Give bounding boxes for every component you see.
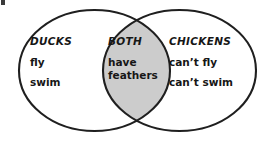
right-set-title: CHICKENS — [169, 36, 233, 47]
intersection-item-2: feathers — [108, 70, 158, 81]
right-set-labels: CHICKENS can’t fly can’t swim — [169, 36, 233, 98]
intersection-item-1: have — [108, 57, 158, 68]
left-set-labels: DUCKS fly swim — [30, 36, 72, 98]
scan-artifact-mark — [1, 0, 5, 5]
left-set-item-1: fly — [30, 57, 72, 68]
right-set-item-2: can’t swim — [169, 77, 233, 88]
left-set-title: DUCKS — [30, 36, 72, 47]
intersection-title: BOTH — [108, 36, 158, 47]
left-set-item-2: swim — [30, 77, 72, 88]
venn-diagram-canvas: DUCKS fly swim BOTH have feathers CHICKE… — [0, 0, 271, 141]
intersection-labels: BOTH have feathers — [108, 36, 158, 84]
right-set-item-1: can’t fly — [169, 57, 233, 68]
